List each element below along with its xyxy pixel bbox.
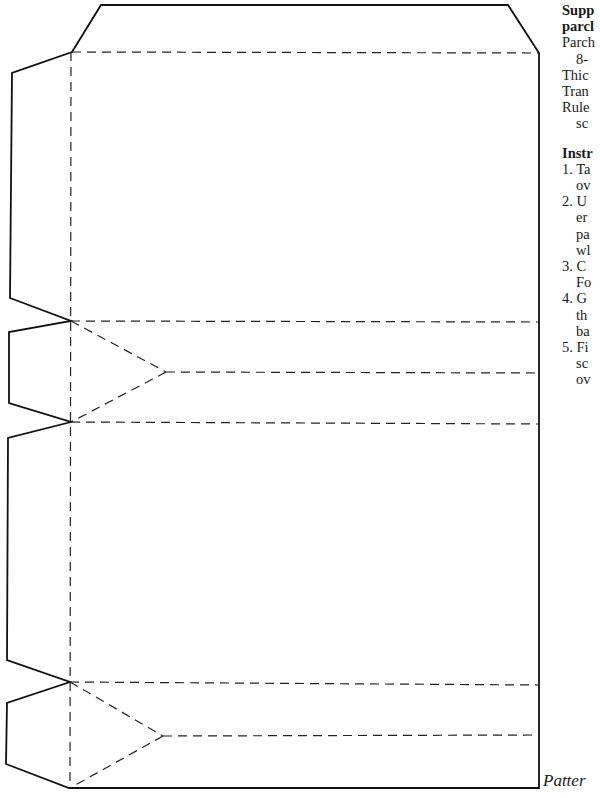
fold-line xyxy=(70,52,71,788)
cut-line-outline xyxy=(6,5,539,788)
instruction-step-continued: ov xyxy=(562,371,600,387)
instruction-step-continued: Fo xyxy=(562,274,600,290)
fold-line xyxy=(72,52,539,53)
instructions-panel: Supp parcl Parch 8- Thic Tran Rule sc In… xyxy=(562,2,600,388)
supply-item: Thic xyxy=(562,67,600,83)
instruction-step-continued: pa xyxy=(562,226,600,242)
fold-line xyxy=(166,372,539,373)
instruction-step-continued: ba xyxy=(562,323,600,339)
fold-lines xyxy=(70,52,539,788)
supply-item: 8- xyxy=(562,51,600,67)
instruction-step: 3. C xyxy=(562,258,600,274)
fold-line xyxy=(163,735,539,736)
supplies-heading-line2: parcl xyxy=(562,18,600,34)
fold-line xyxy=(71,321,166,372)
instruction-step-continued: sc xyxy=(562,355,600,371)
instruction-step-continued: er xyxy=(562,209,600,225)
supply-item: Parch xyxy=(562,34,600,50)
fold-line xyxy=(70,682,163,736)
instruction-steps: 1. Taov2. Uerpawl3. CFo4. Gthba5. Fiscov xyxy=(562,161,600,388)
instruction-step: 5. Fi xyxy=(562,339,600,355)
supply-item: Rule xyxy=(562,99,600,115)
instruction-step: 2. U xyxy=(562,193,600,209)
supply-item: Tran xyxy=(562,83,600,99)
supplies-heading-line1: Supp xyxy=(562,2,600,18)
supplies-list: Parch 8- Thic Tran Rule sc xyxy=(562,34,600,131)
instructions-heading: Instr xyxy=(562,145,600,161)
fold-line xyxy=(71,372,166,422)
instruction-step: 4. G xyxy=(562,290,600,306)
supply-item: sc xyxy=(562,115,600,131)
fold-line xyxy=(71,321,539,322)
fold-line xyxy=(71,422,539,424)
pattern-caption: Patter xyxy=(543,771,586,791)
instruction-step: 1. Ta xyxy=(562,161,600,177)
fold-line xyxy=(70,682,539,685)
fold-line xyxy=(70,736,163,788)
instruction-step-continued: th xyxy=(562,307,600,323)
instruction-step-continued: wl xyxy=(562,242,600,258)
instruction-step-continued: ov xyxy=(562,177,600,193)
